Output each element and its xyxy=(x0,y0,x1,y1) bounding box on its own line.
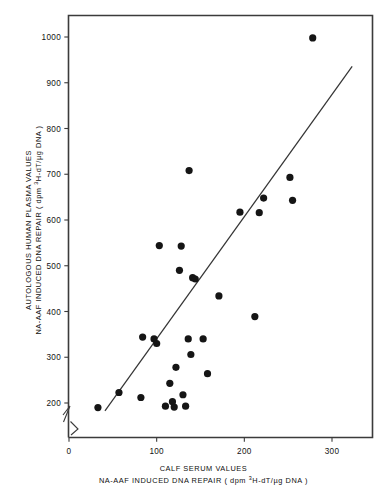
data-point xyxy=(172,364,179,371)
x-axis-title-line1: CALF SERUM VALUES xyxy=(160,464,248,473)
x-axis-tick-label: 0 xyxy=(67,447,72,456)
y-axis-title-line1: AUTOLOGOUS HUMAN PLASMA VALUES xyxy=(24,150,33,310)
data-point xyxy=(236,209,243,216)
data-point xyxy=(187,351,194,358)
y-axis-tick-label: 800 xyxy=(46,125,61,134)
data-point xyxy=(137,394,144,401)
data-point xyxy=(289,197,296,204)
data-point xyxy=(139,334,146,341)
data-point xyxy=(200,335,207,342)
x-axis-tick-label: 100 xyxy=(149,447,164,456)
y-axis-tick-label: 900 xyxy=(46,79,61,88)
y-axis-tick-label: 1000 xyxy=(42,33,62,42)
data-point xyxy=(185,335,192,342)
x-axis-title-line2: NA-AAF INDUCED DNA REPAIR ( dpm 3H-dT/µg… xyxy=(99,475,308,485)
data-point xyxy=(309,34,316,41)
data-point xyxy=(156,242,163,249)
x-axis-tick-label: 200 xyxy=(237,447,252,456)
data-point xyxy=(256,209,263,216)
plot-frame xyxy=(69,16,373,438)
y-axis-tick-label: 600 xyxy=(46,216,61,225)
data-point xyxy=(192,275,199,282)
data-point xyxy=(166,380,173,387)
data-point xyxy=(182,403,189,410)
figure-container: 20030040050060070080090010000100200300CA… xyxy=(0,0,387,494)
data-point xyxy=(286,174,293,181)
data-point xyxy=(176,267,183,274)
y-axis-title-line2: NA-AAF INDUCED DNA REPAIR ( dpm 3H-dT/µg… xyxy=(33,125,43,334)
data-point xyxy=(204,370,211,377)
y-axis-tick-label: 500 xyxy=(46,262,61,271)
data-point xyxy=(215,292,222,299)
y-axis-tick-label: 200 xyxy=(46,399,61,408)
data-point xyxy=(171,404,178,411)
y-axis-tick-label: 700 xyxy=(46,170,61,179)
data-point xyxy=(251,313,258,320)
scatter-plot: 20030040050060070080090010000100200300CA… xyxy=(0,0,387,494)
y-axis-tick-label: 400 xyxy=(46,308,61,317)
data-point xyxy=(94,404,101,411)
x-axis-break-mark xyxy=(71,422,79,436)
data-point xyxy=(162,403,169,410)
data-point xyxy=(186,167,193,174)
data-point xyxy=(179,391,186,398)
x-axis-tick-label: 300 xyxy=(325,447,340,456)
data-point xyxy=(115,389,122,396)
data-point xyxy=(178,242,185,249)
data-point xyxy=(153,340,160,347)
data-point xyxy=(260,194,267,201)
y-axis-tick-label: 300 xyxy=(46,353,61,362)
regression-line xyxy=(105,66,352,410)
